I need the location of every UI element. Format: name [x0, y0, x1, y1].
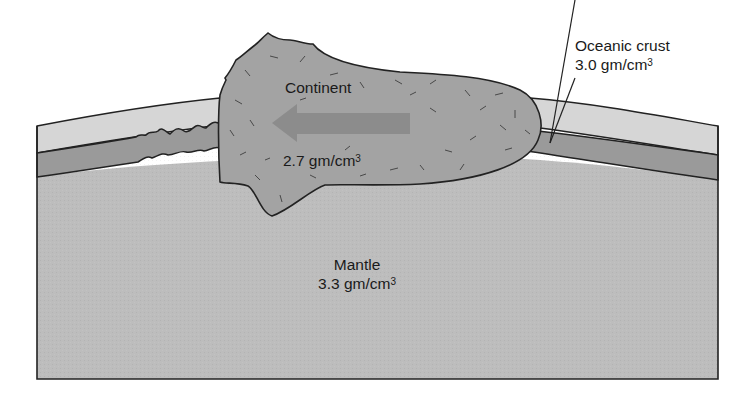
continent-label: Continent [285, 78, 351, 97]
continent-name: Continent [285, 79, 351, 96]
oceanic-crust-density: 3.0 gm/cm3 [575, 55, 670, 74]
oceanic-crust-label: Oceanic crust 3.0 gm/cm3 [575, 36, 670, 74]
mantle-name: Mantle [302, 255, 412, 274]
continent-density-label: 2.7 gm/cm3 [283, 151, 361, 170]
mantle-label: Mantle 3.3 gm/cm3 [302, 255, 412, 293]
mantle-density: 3.3 gm/cm3 [302, 274, 412, 293]
oceanic-crust-name: Oceanic crust [575, 36, 670, 55]
